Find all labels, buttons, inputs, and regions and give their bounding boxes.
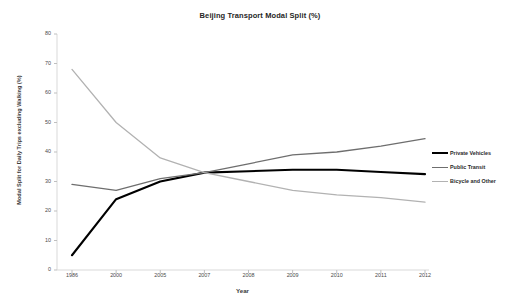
- y-axis-tick: 40: [29, 148, 51, 154]
- x-axis-tick: 2000: [96, 272, 136, 278]
- y-axis-tick: 60: [29, 89, 51, 95]
- x-axis-tick: 2011: [361, 272, 401, 278]
- x-axis-tick: 2012: [405, 272, 445, 278]
- legend-item[interactable]: Bicycle and Other: [432, 174, 518, 188]
- chart-legend: Private VehiclesPublic TransitBicycle an…: [432, 146, 518, 188]
- chart-container: Beijing Transport Modal Split (%) Modal …: [0, 0, 520, 304]
- x-axis-tick: 2009: [273, 272, 313, 278]
- legend-item-label: Public Transit: [450, 164, 485, 170]
- legend-color-swatch: [432, 181, 448, 182]
- x-axis-tick: 2010: [317, 272, 357, 278]
- y-axis-tick: 10: [29, 237, 51, 243]
- y-axis-tick: 0: [29, 266, 51, 272]
- x-axis-tick: 2005: [140, 272, 180, 278]
- legend-item[interactable]: Public Transit: [432, 160, 518, 174]
- y-axis-tick: 70: [29, 60, 51, 66]
- series-line: [72, 139, 425, 191]
- x-axis-tick: 2007: [184, 272, 224, 278]
- y-axis-tick: 20: [29, 207, 51, 213]
- series-line: [72, 170, 425, 256]
- y-axis-tick: 50: [29, 119, 51, 125]
- y-axis-tick: 80: [29, 30, 51, 36]
- legend-item[interactable]: Private Vehicles: [432, 146, 518, 160]
- legend-color-swatch: [432, 152, 448, 154]
- legend-item-label: Private Vehicles: [450, 150, 491, 156]
- x-axis-label: Year: [55, 287, 430, 294]
- x-axis-tick: 1986: [52, 272, 92, 278]
- legend-item-label: Bicycle and Other: [450, 178, 496, 184]
- y-axis-tick: 30: [29, 178, 51, 184]
- x-axis-tick: 2008: [229, 272, 269, 278]
- series-line: [72, 69, 425, 202]
- legend-color-swatch: [432, 167, 448, 168]
